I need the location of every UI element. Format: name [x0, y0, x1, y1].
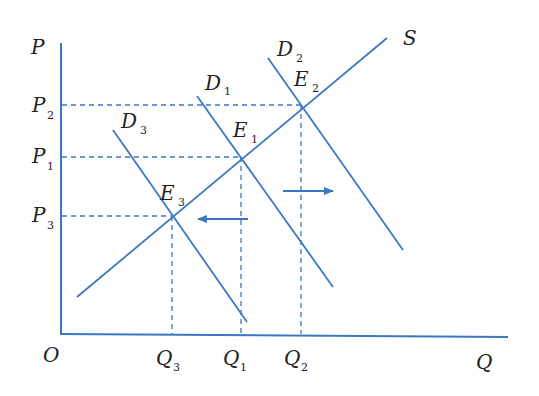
d2-label: D 2 — [276, 37, 303, 65]
svg-text:2: 2 — [296, 52, 303, 65]
d3-label: D 3 — [120, 109, 147, 137]
svg-text:E: E — [159, 181, 175, 205]
x-axis — [60, 334, 508, 337]
e3-label: E 3 — [159, 181, 185, 209]
svg-text:1: 1 — [224, 85, 231, 98]
svg-text:2: 2 — [47, 109, 54, 122]
svg-text:1: 1 — [251, 133, 258, 146]
svg-text:1: 1 — [47, 160, 54, 173]
svg-text:3: 3 — [140, 124, 147, 137]
e2-label: E 2 — [293, 67, 319, 95]
svg-text:P: P — [31, 203, 46, 227]
p2-label: P 2 — [31, 93, 54, 122]
svg-text:3: 3 — [178, 196, 185, 209]
origin-label: O — [43, 343, 59, 367]
axis-label-p: P — [30, 35, 45, 59]
q1-label: Q 1 — [223, 346, 247, 374]
svg-text:E: E — [293, 67, 309, 91]
svg-text:Q: Q — [156, 346, 172, 370]
supply-demand-diagram: P Q O S D 1 D 2 D 3 E 1 E 2 E 3 P 2 P 1 … — [0, 0, 539, 396]
p1-label: P 1 — [31, 144, 54, 173]
q3-label: Q 3 — [156, 346, 180, 374]
svg-text:Q: Q — [284, 346, 300, 370]
p3-label: P 3 — [31, 203, 54, 232]
svg-text:P: P — [31, 144, 46, 168]
svg-text:D: D — [120, 109, 137, 133]
svg-text:2: 2 — [312, 82, 319, 95]
svg-text:P: P — [31, 93, 46, 117]
demand-curve-d2 — [268, 58, 403, 250]
e1-label: E 1 — [232, 118, 258, 146]
axis-label-q: Q — [476, 350, 492, 374]
svg-text:D: D — [204, 71, 221, 95]
svg-text:D: D — [276, 37, 293, 61]
demand-curve-d3 — [113, 130, 247, 322]
svg-text:E: E — [232, 118, 248, 142]
svg-text:1: 1 — [240, 361, 247, 374]
supply-curve — [77, 38, 387, 297]
svg-text:3: 3 — [173, 361, 180, 374]
svg-text:3: 3 — [47, 219, 54, 232]
supply-label: S — [403, 26, 417, 50]
d1-label: D 1 — [204, 71, 231, 98]
svg-text:2: 2 — [301, 361, 308, 374]
q2-label: Q 2 — [284, 346, 308, 374]
svg-text:Q: Q — [223, 346, 239, 370]
